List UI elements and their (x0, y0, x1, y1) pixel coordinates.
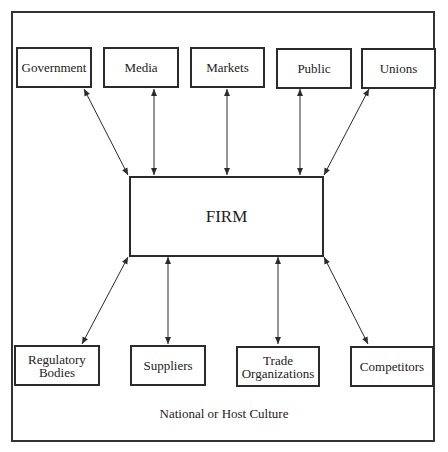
arrow-firm-competitors (324, 257, 368, 344)
node-unions: Unions (361, 48, 436, 89)
node-suppliers: Suppliers (130, 345, 206, 386)
node-trade-organizations: Trade Organizations (236, 346, 320, 387)
node-label: Organizations (242, 367, 315, 380)
node-label: Competitors (360, 360, 424, 373)
arrow-firm-regulatory (82, 257, 128, 344)
node-competitors: Competitors (350, 346, 434, 387)
node-regulatory-bodies: Regulatory Bodies (14, 345, 100, 386)
node-label: Trade (263, 354, 293, 367)
arrow-government-firm (84, 89, 128, 175)
node-label: Suppliers (143, 359, 192, 372)
node-label: Markets (206, 61, 249, 74)
node-firm: FIRM (129, 176, 324, 257)
node-label: Public (297, 62, 330, 75)
node-label: Government (22, 61, 87, 74)
node-label: Bodies (39, 366, 75, 379)
node-government: Government (16, 47, 92, 88)
node-media: Media (103, 47, 179, 88)
node-label: Media (124, 61, 157, 74)
node-public: Public (276, 48, 352, 89)
arrow-unions-firm (324, 89, 369, 175)
firm-label: FIRM (206, 210, 248, 223)
node-label: Unions (380, 62, 418, 75)
node-markets: Markets (190, 47, 265, 88)
node-label: Regulatory (28, 353, 86, 366)
host-culture-caption: National or Host Culture (0, 406, 448, 422)
